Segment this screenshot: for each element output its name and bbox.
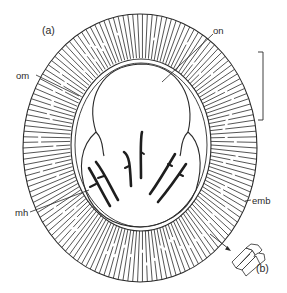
embryonic-hooks xyxy=(89,132,186,206)
label-emb: emb xyxy=(252,195,270,206)
label-on: on xyxy=(213,25,224,36)
scale-bar xyxy=(258,52,263,120)
panel-b-label: (b) xyxy=(256,262,269,274)
panel-a-label: (a) xyxy=(42,24,55,36)
label-om: om xyxy=(16,70,29,81)
egg-diagram: (a) on om mh emb (b) xyxy=(0,0,287,293)
leader-lines xyxy=(30,34,251,212)
label-mh: mh xyxy=(15,207,28,218)
